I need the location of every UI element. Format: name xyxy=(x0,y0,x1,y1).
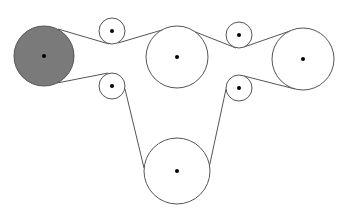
pulley-idler-lower-right xyxy=(226,75,252,101)
belt-segment xyxy=(209,89,226,168)
axle-dot-icon xyxy=(301,57,305,61)
axle-dot-icon xyxy=(175,169,179,173)
axle-dot-icon xyxy=(110,29,114,33)
axle-dot-icon xyxy=(237,86,241,90)
pulley-pulley-bottom xyxy=(144,138,210,204)
belt-segment xyxy=(125,89,144,168)
pulley-pulley-right xyxy=(272,28,334,90)
axle-dot-icon xyxy=(42,54,46,58)
pulleys xyxy=(14,18,334,204)
axle-dot-icon xyxy=(110,84,114,88)
pulley-pulley-top-middle xyxy=(146,26,208,88)
axle-dot-icon xyxy=(237,33,241,37)
pulley-idler-top-right xyxy=(226,22,252,48)
pulley-idler-top-left xyxy=(99,18,125,44)
axle-dot-icon xyxy=(175,55,179,59)
pulley-driver xyxy=(14,26,74,86)
pulley-idler-lower-left xyxy=(99,73,125,99)
belt-pulley-diagram xyxy=(0,0,342,216)
